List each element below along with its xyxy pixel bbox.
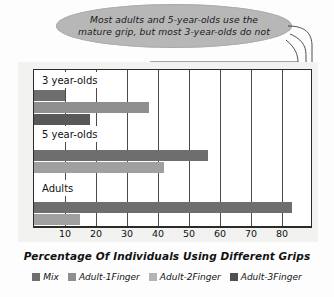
legend-label-adult-3finger: Adult-3Finger bbox=[241, 272, 302, 282]
legend-item-adult-1finger: Adult-1Finger bbox=[68, 272, 140, 282]
legend-label-adult-1finger: Adult-1Finger bbox=[79, 272, 140, 282]
bar-3yo-adult-1finger bbox=[34, 102, 149, 113]
bar-3yo-mix bbox=[34, 90, 65, 101]
legend-item-adult-2finger: Adult-2Finger bbox=[149, 272, 221, 282]
legend-label-mix: Mix bbox=[43, 272, 59, 282]
x-axis-title: Percentage Of Individuals Using Differen… bbox=[0, 250, 334, 262]
bar-5yo-adult-1finger bbox=[34, 150, 208, 161]
legend-label-adult-2finger: Adult-2Finger bbox=[160, 272, 221, 282]
bar-3yo-adult-2finger bbox=[34, 114, 90, 125]
xtick-10: 10 bbox=[59, 228, 71, 239]
xtick-20: 20 bbox=[90, 228, 102, 239]
callout-bubble: Most adults and 5-year-olds use the matu… bbox=[56, 4, 292, 48]
xtick-70: 70 bbox=[245, 228, 257, 239]
group-label-3-year-olds: 3 year-olds bbox=[36, 72, 102, 88]
xtick-30: 30 bbox=[121, 228, 133, 239]
chart-panel: 3 year-olds 5 year-olds Adults 10 bbox=[18, 62, 318, 242]
bar-adults-adult-2finger bbox=[34, 214, 80, 225]
legend-swatch-mix bbox=[32, 273, 40, 281]
legend-item-mix: Mix bbox=[32, 272, 59, 282]
callout-text: Most adults and 5-year-olds use the matu… bbox=[56, 14, 292, 38]
bar-group-adults: Adults bbox=[34, 180, 311, 230]
xtick-40: 40 bbox=[152, 228, 164, 239]
chart-figure: Most adults and 5-year-olds use the matu… bbox=[0, 0, 334, 297]
plot-area: 3 year-olds 5 year-olds Adults 10 bbox=[33, 69, 312, 228]
group-label-adults: Adults bbox=[36, 180, 78, 196]
x-axis-ticks: 10 20 30 40 50 60 70 80 bbox=[34, 227, 311, 241]
legend-item-adult-3finger: Adult-3Finger bbox=[230, 272, 302, 282]
legend-swatch-adult-3finger bbox=[230, 273, 238, 281]
legend-swatch-adult-1finger bbox=[68, 273, 76, 281]
xtick-80: 80 bbox=[276, 228, 288, 239]
bar-adults-adult-1finger bbox=[34, 202, 292, 213]
bar-group-5-year-olds: 5 year-olds bbox=[34, 126, 311, 178]
legend-swatch-adult-2finger bbox=[149, 273, 157, 281]
chart-legend: Mix Adult-1Finger Adult-2Finger Adult-3F… bbox=[0, 272, 334, 282]
group-label-5-year-olds: 5 year-olds bbox=[36, 126, 102, 142]
bar-5yo-adult-2finger bbox=[34, 162, 164, 173]
xtick-60: 60 bbox=[214, 228, 226, 239]
bar-group-3-year-olds: 3 year-olds bbox=[34, 72, 311, 124]
xtick-50: 50 bbox=[183, 228, 195, 239]
